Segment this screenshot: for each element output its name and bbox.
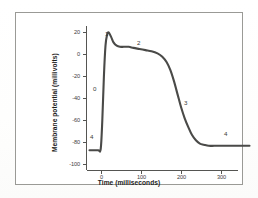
phase-label-2: 2	[137, 40, 140, 46]
action-potential-chart	[0, 0, 258, 198]
y-tick-label-minus40: -40	[58, 96, 80, 102]
phase-label-0: 0	[93, 86, 96, 92]
phase-label-4-right: 4	[224, 131, 227, 137]
phase-label-1: 1	[105, 31, 108, 37]
y-tick-label-minus20: -20	[58, 74, 80, 80]
y-axis-title: Membrane potential (millivolts)	[52, 53, 59, 152]
y-tick-label-minus80: -80	[58, 140, 80, 146]
phase-label-4-left: 4	[90, 134, 93, 140]
y-tick-label-0: 0	[58, 52, 80, 58]
y-axis-ticks	[83, 33, 87, 165]
y-tick-label-minus60: -60	[58, 118, 80, 124]
x-axis-ticks	[102, 171, 222, 175]
plot-area: 20 0 -20 -40 -60 -80 -100 0 100 200 300 …	[0, 0, 258, 198]
figure-root: 20 0 -20 -40 -60 -80 -100 0 100 200 300 …	[0, 0, 258, 198]
phase-label-3: 3	[184, 100, 187, 106]
x-axis-title: Time (milliseconds)	[0, 180, 258, 187]
y-tick-label-minus100: -100	[56, 162, 80, 168]
y-tick-label-20: 20	[58, 30, 80, 36]
